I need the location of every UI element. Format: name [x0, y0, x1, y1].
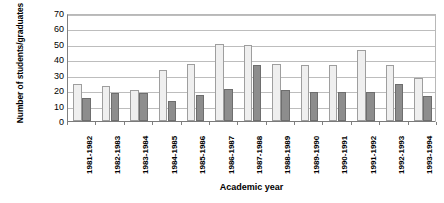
- x-axis-category-label: 1985-1986: [198, 124, 207, 174]
- y-axis-title: Number of students/graduates: [15, 0, 25, 128]
- y-axis-tick-label: 0: [42, 118, 64, 127]
- bar-group: [187, 14, 205, 121]
- bar-group: [159, 14, 177, 121]
- x-axis-tick-mark: [209, 122, 210, 125]
- bar-group: [73, 14, 91, 121]
- bar: [357, 50, 366, 121]
- bar: [338, 92, 347, 121]
- x-axis-category-label: 1992-1993: [397, 124, 406, 174]
- bar: [82, 98, 91, 121]
- x-axis-category-label: 1990-1991: [340, 124, 349, 174]
- x-axis-title: Academic year: [67, 182, 436, 192]
- y-axis-tick-label: 10: [42, 102, 64, 111]
- bar: [386, 65, 395, 121]
- x-axis-tick-mark: [379, 122, 380, 125]
- x-axis-tick-mark: [237, 122, 238, 125]
- y-axis-tick-labels: 010203040506070: [42, 14, 64, 122]
- bar-group: [414, 14, 432, 121]
- bar: [329, 65, 338, 121]
- bar: [159, 70, 168, 121]
- y-axis-tick-label: 60: [42, 25, 64, 34]
- bar-group: [215, 14, 233, 121]
- x-axis-tick-mark: [95, 122, 96, 125]
- bar-group: [301, 14, 319, 121]
- x-axis-category-label: 1986-1987: [227, 124, 236, 174]
- y-axis-tick-label: 30: [42, 71, 64, 80]
- y-axis-tick-label: 50: [42, 40, 64, 49]
- x-axis-category-label: 1983-1984: [141, 124, 150, 174]
- bars-layer: [68, 15, 435, 122]
- x-axis-category-label: 1981-1982: [85, 124, 94, 174]
- bar: [281, 90, 290, 121]
- bar-group: [357, 14, 375, 121]
- bar: [244, 45, 253, 121]
- bar: [224, 89, 233, 121]
- y-axis-tick-label: 20: [42, 87, 64, 96]
- bar-group: [244, 14, 262, 121]
- bar-group: [130, 14, 148, 121]
- bar: [102, 86, 111, 121]
- x-axis-tick-mark: [436, 122, 437, 125]
- x-axis-tick-mark: [181, 122, 182, 125]
- bar: [111, 93, 120, 121]
- bar-group: [329, 14, 347, 121]
- x-axis-tick-mark: [266, 122, 267, 125]
- x-axis-category-label: 1984-1985: [170, 124, 179, 174]
- x-axis-tick-mark: [408, 122, 409, 125]
- plot-area: [67, 14, 436, 122]
- x-axis-category-labels: 1981-19821982-19831983-19841984-19851985…: [67, 126, 436, 176]
- bar: [215, 44, 224, 121]
- bar: [139, 93, 148, 121]
- x-axis-tick-mark: [351, 122, 352, 125]
- x-axis-category-label: 1993-1994: [425, 124, 434, 174]
- bar: [187, 64, 196, 121]
- bar: [196, 95, 205, 121]
- bar: [423, 96, 432, 121]
- bar: [253, 65, 262, 121]
- bar-chart: Number of students/graduates 01020304050…: [0, 0, 444, 203]
- bar: [395, 84, 404, 121]
- bar-group: [102, 14, 120, 121]
- x-axis-tick-mark: [67, 122, 68, 125]
- bar: [130, 90, 139, 121]
- x-axis-category-label: 1982-1983: [113, 124, 122, 174]
- bar: [366, 92, 375, 121]
- x-axis-tick-mark: [294, 122, 295, 125]
- x-axis-tick-mark: [152, 122, 153, 125]
- bar: [73, 84, 82, 121]
- bar-group: [272, 14, 290, 121]
- bar: [310, 92, 319, 121]
- x-axis-category-label: 1987-1988: [255, 124, 264, 174]
- x-axis-category-label: 1988-1989: [283, 124, 292, 174]
- bar: [301, 65, 310, 121]
- x-axis-category-label: 1991-1992: [369, 124, 378, 174]
- x-axis-category-label: 1989-1990: [312, 124, 321, 174]
- bar: [272, 64, 281, 121]
- bar: [168, 101, 177, 121]
- bar-group: [386, 14, 404, 121]
- x-axis-tick-mark: [322, 122, 323, 125]
- y-axis-tick-label: 40: [42, 56, 64, 65]
- bar: [414, 78, 423, 121]
- x-axis-tick-mark: [124, 122, 125, 125]
- y-axis-tick-label: 70: [42, 10, 64, 19]
